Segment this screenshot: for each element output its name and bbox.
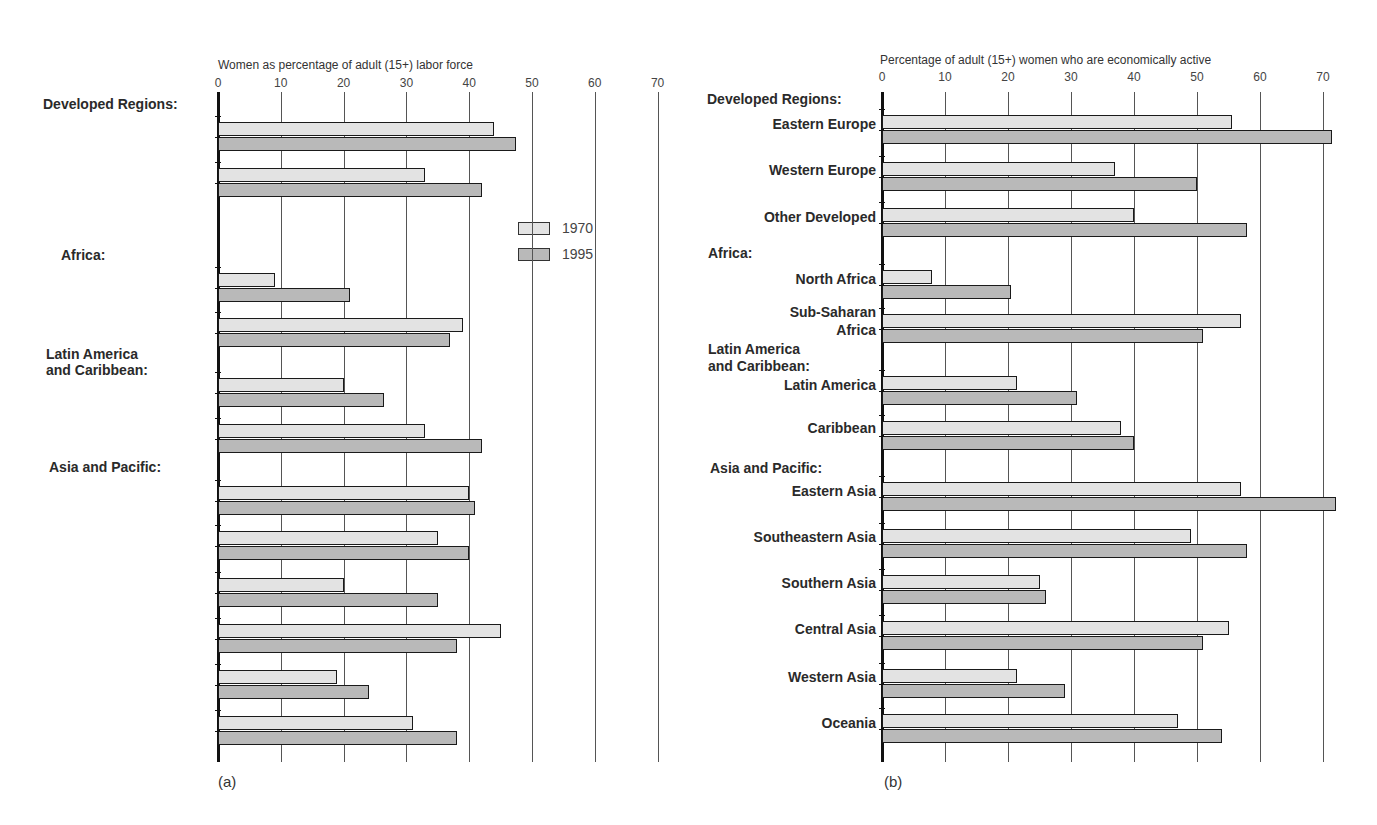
axis-tick [879,523,885,524]
category-label: North Africa [796,270,876,288]
group-header: Asia and Pacific: [710,459,822,477]
group-header: Africa: [708,244,752,262]
axis-tick [879,109,885,110]
bar-1995 [882,391,1077,405]
category-label: Latin America [784,376,876,394]
category-label: Oceania [822,714,876,732]
gridline [1197,92,1198,762]
axis-tick [879,729,885,730]
axis-tick [879,370,885,371]
axis-tick [879,285,885,286]
x-tick-label: 0 [879,70,886,84]
group-header: Developed Regions: [707,90,842,108]
gridline [1134,92,1135,762]
bar-1970 [882,208,1134,222]
x-tick-label: 60 [1253,70,1266,84]
bar-1970 [882,575,1040,589]
bar-1995 [882,223,1247,237]
panel-tag: (b) [884,773,902,790]
group-header: and Caribbean: [708,357,810,375]
bar-1995 [882,285,1011,299]
axis-tick [879,202,885,203]
bar-1995 [882,177,1197,191]
axis-tick [879,663,885,664]
axis-tick [879,544,885,545]
x-tick-label: 30 [1064,70,1077,84]
axis-tick [879,156,885,157]
bar-1995 [882,729,1222,743]
bar-1995 [882,684,1065,698]
axis-tick [879,615,885,616]
bar-1970 [882,314,1241,328]
axis-tick [879,223,885,224]
category-label: Other Developed [764,208,876,226]
x-tick-label: 70 [1316,70,1329,84]
x-tick-label: 10 [938,70,951,84]
bar-1970 [882,270,932,284]
category-label: Southeastern Asia [754,528,876,546]
axis-tick [879,177,885,178]
bar-1995 [882,130,1332,144]
axis-tick [879,391,885,392]
axis-tick [879,708,885,709]
category-label: Eastern Asia [792,482,876,500]
axis-tick [879,569,885,570]
gridline [1260,92,1261,762]
bar-1970 [882,115,1232,129]
axis-tick [879,436,885,437]
chart-panel-b: Percentage of adult (15+) women who are … [0,0,1377,825]
axis-tick [879,636,885,637]
axis-tick [879,415,885,416]
axis-tick [879,329,885,330]
category-label: Africa [836,321,876,339]
axis-tick [879,308,885,309]
axis-tick [879,476,885,477]
bar-1995 [882,590,1046,604]
x-axis-title: Percentage of adult (15+) women who are … [880,53,1211,67]
gridline [1323,92,1324,762]
category-label: Central Asia [795,620,876,638]
bar-1970 [882,714,1178,728]
bar-1970 [882,621,1229,635]
group-header: Latin America [708,340,800,358]
axis-tick [879,130,885,131]
category-label: Eastern Europe [773,115,876,133]
x-tick-label: 50 [1190,70,1203,84]
bar-1970 [882,669,1017,683]
bar-1995 [882,636,1203,650]
axis-tick [879,590,885,591]
axis-tick [879,497,885,498]
bar-1970 [882,376,1017,390]
bar-1970 [882,482,1241,496]
x-tick-label: 40 [1127,70,1140,84]
bar-1995 [882,436,1134,450]
axis-tick [879,264,885,265]
category-label: Western Asia [788,668,876,686]
bar-1995 [882,329,1203,343]
bar-1995 [882,497,1336,511]
bar-1970 [882,421,1121,435]
category-label: Western Europe [769,161,876,179]
bar-1970 [882,529,1191,543]
category-label: Southern Asia [782,574,876,592]
axis-tick [879,684,885,685]
category-label: Sub-Saharan [790,303,876,321]
category-label: Caribbean [808,419,876,437]
bar-1995 [882,544,1247,558]
bar-1970 [882,162,1115,176]
x-tick-label: 20 [1001,70,1014,84]
